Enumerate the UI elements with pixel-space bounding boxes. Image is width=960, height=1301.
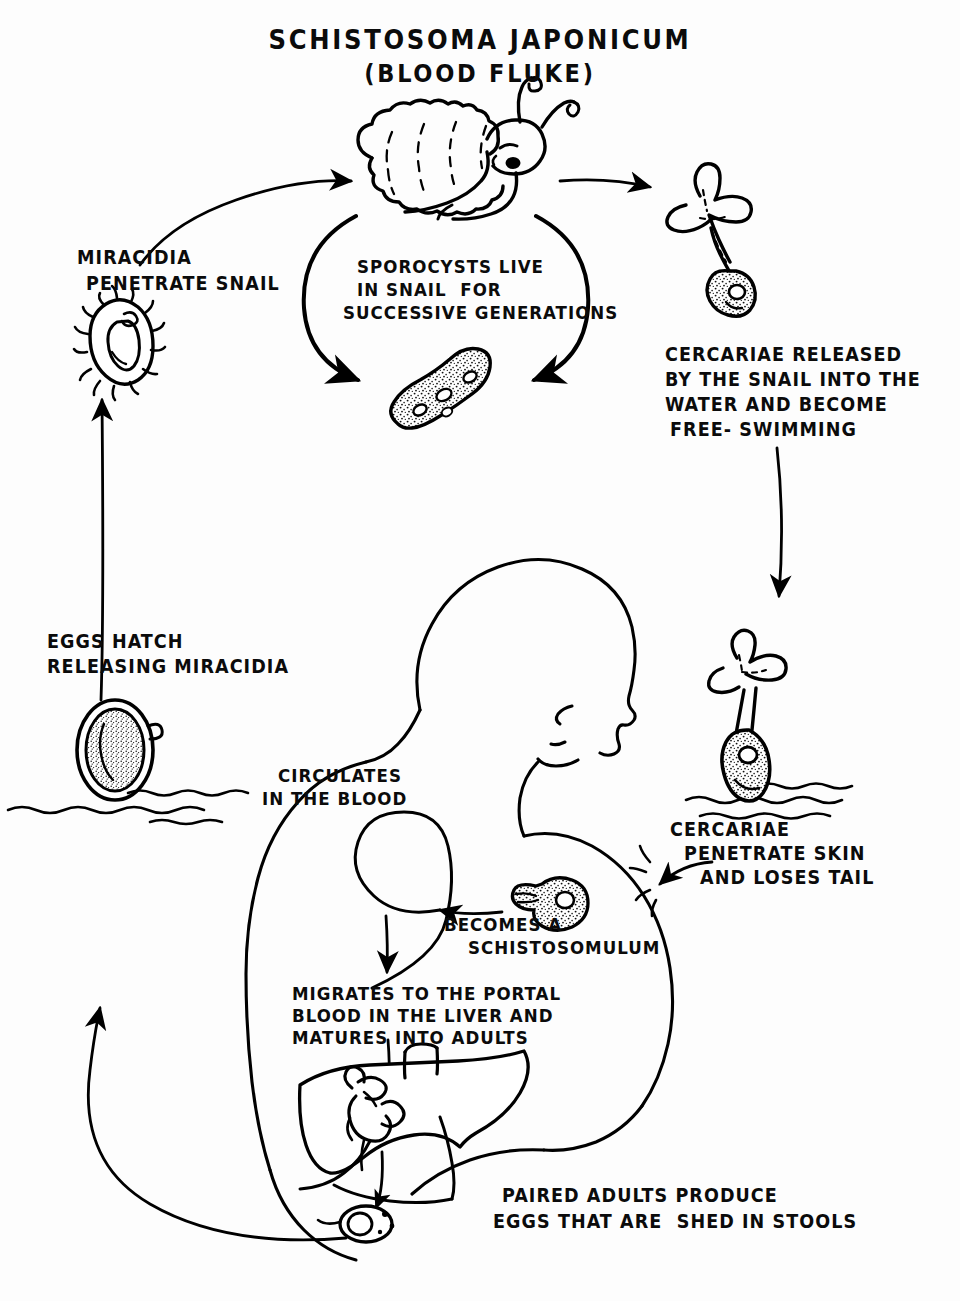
label-miracidia-line1: MIRACIDIA bbox=[77, 246, 192, 271]
miracidium-figure bbox=[74, 286, 165, 400]
label-becomes-line2: SCHISTOSOMULUM bbox=[468, 936, 660, 959]
label-paired-line1: PAIRED ADULTS PRODUCE bbox=[502, 1184, 778, 1209]
label-sporocysts-line1: SPOROCYSTS LIVE bbox=[357, 255, 544, 278]
label-migrates-line3: MATURES INTO ADULTS bbox=[292, 1026, 529, 1049]
water-surface-right bbox=[686, 784, 852, 819]
label-sporocysts-line3: SUCCESSIVE GENERATIONS bbox=[343, 301, 618, 324]
cercaria-free-swimming-figure bbox=[667, 164, 755, 317]
label-released-line4: FREE- SWIMMING bbox=[670, 418, 857, 443]
arrow-sporocyst-loop-right bbox=[534, 216, 588, 380]
arrow-circulates-down bbox=[386, 916, 387, 972]
label-circulates-line2: IN THE BLOOD bbox=[262, 787, 407, 810]
label-becomes-line1: BECOMES A bbox=[444, 913, 562, 936]
snail-figure bbox=[358, 78, 579, 220]
label-eggs-hatch-line1: EGGS HATCH bbox=[47, 630, 184, 655]
label-penetrate-line1: CERCARIAE bbox=[670, 818, 790, 843]
sporocyst-figure bbox=[391, 348, 490, 428]
diagram-subtitle: (BLOOD FLUKE) bbox=[0, 58, 960, 90]
egg-figure bbox=[77, 700, 162, 800]
label-released-line1: CERCARIAE RELEASED bbox=[665, 343, 902, 368]
arrow-sporocyst-loop-left bbox=[304, 216, 358, 380]
diagram-title: SCHISTOSOMA JAPONICUM bbox=[0, 24, 960, 57]
arrow-cercaria-down-to-water bbox=[777, 448, 782, 596]
label-migrates-line2: BLOOD IN THE LIVER AND bbox=[292, 1004, 554, 1027]
label-miracidia-line2: PENETRATE SNAIL bbox=[86, 272, 280, 297]
label-penetrate-line3: AND LOSES TAIL bbox=[700, 866, 874, 891]
label-eggs-hatch-line2: RELEASING MIRACIDIA bbox=[47, 655, 289, 680]
label-penetrate-line2: PENETRATE SKIN bbox=[684, 842, 866, 867]
label-released-line3: WATER AND BECOME bbox=[665, 393, 888, 418]
cercaria-in-water-figure bbox=[709, 630, 786, 801]
label-paired-line2: EGGS THAT ARE SHED IN STOOLS bbox=[493, 1210, 857, 1235]
liver-figure bbox=[300, 1044, 529, 1203]
diagram-canvas: SCHISTOSOMA JAPONICUM (BLOOD FLUKE) MIRA… bbox=[0, 0, 960, 1301]
label-sporocysts-line2: IN SNAIL FOR bbox=[357, 278, 502, 301]
arrow-snail-to-cercaria bbox=[560, 180, 650, 187]
label-migrates-line1: MIGRATES TO THE PORTAL bbox=[292, 982, 561, 1005]
label-circulates-line1: CIRCULATES bbox=[278, 764, 402, 787]
blood-circulation-loop bbox=[355, 812, 451, 988]
label-released-line2: BY THE SNAIL INTO THE bbox=[665, 368, 921, 393]
